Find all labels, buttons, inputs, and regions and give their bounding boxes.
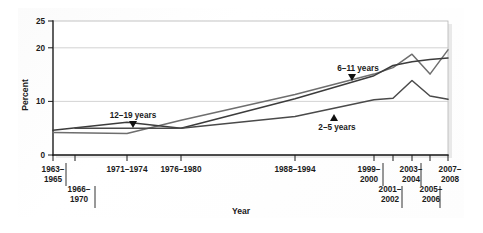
- x-label-2003-2004-a: 2003–: [400, 165, 423, 174]
- x-label-1966-1970-b: 1970: [70, 195, 89, 204]
- x-label-1999-2000-a: 1999–: [358, 165, 381, 174]
- annotation-label-6-11-years: 6–11 years: [337, 64, 379, 73]
- y-tick-label-10: 10: [36, 97, 46, 106]
- figure-container: 0 10 20 25 Percent 1963– 1965 1971–1974 …: [0, 0, 483, 233]
- x-label-2005-2006-a: 2005–: [420, 185, 443, 194]
- line-chart: 0 10 20 25 Percent 1963– 1965 1971–1974 …: [0, 0, 483, 233]
- annotation-label-12-19-years: 12–19 years: [110, 111, 157, 120]
- annotation-label-2-5-years: 2–5 years: [318, 123, 356, 132]
- x-label-1988-1994: 1988–1994: [275, 165, 316, 174]
- x-label-1966-1970-a: 1966–: [68, 185, 91, 194]
- x-label-2007-2008-b: 2008: [441, 175, 460, 184]
- plot-area: [53, 21, 448, 155]
- x-label-1963-1965-b: 1965: [44, 175, 63, 184]
- x-label-2001-2002-b: 2002: [381, 195, 400, 204]
- x-label-2005-2006-b: 2006: [422, 195, 441, 204]
- x-label-1963-1965-a: 1963–: [42, 165, 65, 174]
- y-axis-title: Percent: [20, 79, 30, 111]
- x-label-1976-1980: 1976–1980: [161, 165, 202, 174]
- y-tick-label-0: 0: [40, 151, 45, 160]
- x-label-2001-2002-a: 2001–: [379, 185, 402, 194]
- x-label-1971-1974: 1971–1974: [107, 165, 148, 174]
- x-label-2007-2008-a: 2007–: [439, 165, 462, 174]
- y-tick-label-25: 25: [36, 17, 46, 26]
- y-tick-label-20: 20: [36, 44, 46, 53]
- x-label-2003-2004-b: 2004: [402, 175, 421, 184]
- x-axis-title: Year: [232, 206, 251, 216]
- x-label-1999-2000-b: 2000: [360, 175, 379, 184]
